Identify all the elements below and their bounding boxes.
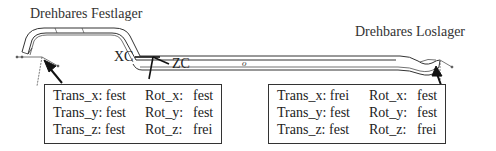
dof-row: Trans_y: festRot_y:fest (277, 105, 437, 121)
rot-y-label: Rot_y: (145, 105, 193, 121)
trans-x-value: frei (330, 88, 349, 103)
origin-mark: o (242, 58, 247, 68)
rot-x-label: Rot_x: (145, 88, 193, 104)
dof-row: Trans_z: festRot_z:frei (53, 122, 212, 138)
dof-row: Trans_x: festRot_x:fest (53, 88, 213, 104)
beam-part (22, 28, 440, 75)
trans-z-value: fest (105, 122, 125, 137)
rot-x-value: fest (417, 88, 437, 104)
trans-y-label: Trans_y: (277, 105, 326, 120)
trans-x-value: fest (106, 88, 126, 103)
rot-z-value: frei (193, 122, 212, 138)
rot-z-label: Rot_z: (369, 122, 417, 138)
trans-y-value: fest (106, 105, 126, 120)
dof-row: Trans_z: festRot_z:frei (277, 122, 436, 138)
dof-row: Trans_y: festRot_y:fest (53, 105, 213, 121)
rot-y-value: fest (193, 105, 213, 121)
loslager-dof-box: Trans_x: freiRot_x:fest Trans_y: festRot… (268, 84, 446, 144)
rot-x-label: Rot_x: (369, 88, 417, 104)
trans-z-label: Trans_z: (277, 122, 326, 137)
rot-z-value: frei (417, 122, 436, 138)
dof-row: Trans_x: freiRot_x:fest (277, 88, 437, 104)
trans-y-label: Trans_y: (53, 105, 102, 120)
rot-y-value: fest (417, 105, 437, 121)
trans-y-value: fest (330, 105, 350, 120)
trans-z-label: Trans_z: (53, 122, 102, 137)
xc-axis-label: XC (114, 49, 133, 65)
zc-axis-label: ZC (172, 56, 190, 72)
festlager-dof-box: Trans_x: festRot_x:fest Trans_y: festRot… (44, 84, 222, 144)
rot-y-label: Rot_y: (369, 105, 417, 121)
rot-x-value: fest (193, 88, 213, 104)
trans-z-value: fest (329, 122, 349, 137)
rot-z-label: Rot_z: (145, 122, 193, 138)
trans-x-label: Trans_x: (53, 88, 102, 103)
trans-x-label: Trans_x: (277, 88, 326, 103)
